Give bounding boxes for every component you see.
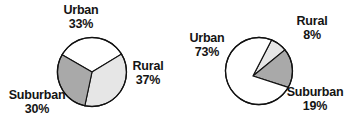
pie-right-label-suburban-category: Suburban xyxy=(278,85,348,99)
pie-right-label-urban-category: Urban xyxy=(176,31,238,45)
pie-left-label-urban-percent: 33% xyxy=(46,17,116,31)
pie-right-label-suburban-percent: 19% xyxy=(278,99,348,113)
pie-chart-left: Urban 33% Rural 37% Suburban 30% xyxy=(0,0,174,131)
pie-right-label-rural-category: Rural xyxy=(288,14,336,28)
pie-chart-figure: Urban 33% Rural 37% Suburban 30% Urban 7… xyxy=(0,0,348,131)
pie-left-label-suburban-category: Suburban xyxy=(0,88,74,102)
pie-right-label-rural: Rural 8% xyxy=(288,14,336,42)
pie-left-label-rural: Rural 37% xyxy=(124,59,172,87)
pie-right-label-urban: Urban 73% xyxy=(176,31,238,59)
pie-left-label-urban-category: Urban xyxy=(46,3,116,17)
pie-right-label-suburban: Suburban 19% xyxy=(278,85,348,113)
pie-left-label-rural-percent: 37% xyxy=(124,73,172,87)
pie-left-label-rural-category: Rural xyxy=(124,59,172,73)
pie-left-label-suburban-percent: 30% xyxy=(0,102,74,116)
pie-chart-right: Urban 73% Rural 8% Suburban 19% xyxy=(174,0,348,131)
pie-right-label-urban-percent: 73% xyxy=(176,45,238,59)
pie-right-label-rural-percent: 8% xyxy=(288,28,336,42)
pie-left-label-urban: Urban 33% xyxy=(46,3,116,31)
pie-left-label-suburban: Suburban 30% xyxy=(0,88,74,116)
